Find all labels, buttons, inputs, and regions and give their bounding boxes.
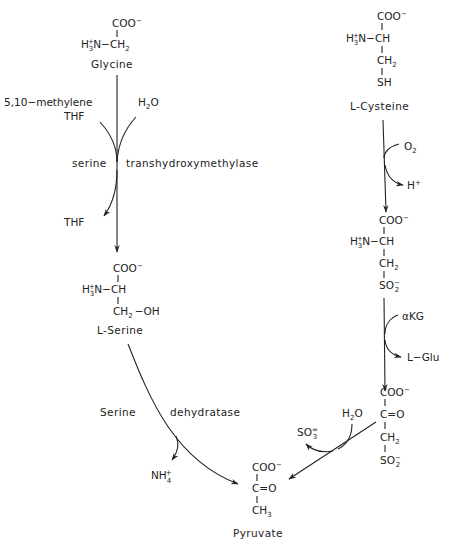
o2-label: O2 [404, 140, 417, 155]
pyruvate-keto: C=O [252, 482, 276, 494]
water-label: H2O [138, 96, 159, 111]
cysteine-sh: SH [377, 76, 392, 88]
sulfinylpyruvate-structure: COO− C=O CH2 SO−2 [380, 386, 410, 469]
water-in-curve [117, 117, 136, 162]
sulfinylpyruvate-coo: COO− [380, 386, 410, 398]
enzyme-label-right: dehydratase [170, 406, 240, 418]
cysteine-dioxygenase-step: O2 H+ [383, 120, 421, 212]
cysteine-label: L-Cysteine [350, 100, 409, 112]
nh4-out-curve [172, 436, 178, 460]
glycine-amine: H+3N−CH2 [81, 38, 130, 53]
sulfinylpyruvate-so2: SO−2 [380, 454, 401, 469]
cysteinesulfinate-coo: COO− [379, 214, 409, 226]
serine-amine: H+3N−CH [82, 283, 126, 298]
serine-transhydroxymethylase-step: 5,10−methylene THF H2O serine transhydro… [4, 75, 259, 252]
enzyme-label-left: serine [72, 157, 107, 169]
serine-dehydratase-step: Serine dehydratase NH+4 [100, 344, 240, 485]
methylene-thf-label-2: THF [63, 110, 84, 122]
cysteine-sulfinate-structure: COO− H+3N−CH CH2 SO−2 [350, 214, 409, 294]
cysteine-coo: COO− [377, 10, 407, 22]
sulfinylpyruvate-ch2: CH2 [380, 431, 400, 446]
thf-out-label: THF [63, 216, 84, 228]
h-out-curve [385, 165, 403, 185]
sulfinylpyruvate-keto: C=O [380, 408, 404, 420]
nh4-label: NH+4 [151, 469, 172, 485]
pyruvate-ch3: CH3 [252, 504, 272, 519]
cysteinesulfinate-amine: H+3N−CH [350, 235, 394, 250]
glycine-coo: COO− [112, 17, 142, 29]
sulfite-out-curve [306, 444, 333, 452]
serine-structure: COO− H+3N−CH CH2−OH L-Serine [82, 262, 160, 336]
serine-label: L-Serine [97, 324, 143, 336]
desulfination-step: H2O SO=3 [289, 407, 376, 479]
thf-out-curve [104, 170, 117, 216]
glycine-structure: COO− H+3N−CH2 Glycine [81, 17, 142, 70]
serine-ch2oh: CH2−OH [113, 305, 160, 320]
enzyme-label-right: transhydroxymethylase [126, 157, 259, 169]
akg-in-curve [385, 315, 398, 334]
cysteine-structure: COO− H+3N−CH CH2 SH L-Cysteine [346, 10, 409, 112]
h-plus-label: H+ [407, 179, 421, 191]
pyruvate-coo: COO− [252, 461, 282, 473]
sulfite-label: SO=3 [297, 426, 318, 441]
enzyme-label-left: Serine [100, 406, 136, 418]
methylene-thf-label: 5,10−methylene [4, 96, 92, 108]
thf-in-curve [100, 122, 117, 162]
serine-coo: COO− [113, 262, 143, 274]
water-label: H2O [342, 407, 363, 422]
akg-label: αKG [402, 310, 424, 322]
cysteinesulfinate-ch2: CH2 [379, 257, 399, 272]
main-arrow [384, 298, 385, 391]
pathway-diagram: COO− H+3N−CH2 Glycine 5,10−methylene THF… [0, 0, 459, 555]
cysteine-ch2: CH2 [377, 54, 397, 69]
pyruvate-label: Pyruvate [233, 527, 283, 539]
glycine-label: Glycine [91, 58, 133, 70]
transamination-step: αKG L−Glu [384, 298, 439, 391]
cysteinesulfinate-so2: SO−2 [379, 279, 400, 294]
cysteine-amine: H+3N−CH [346, 32, 390, 47]
glu-out-curve [385, 340, 401, 357]
pyruvate-structure: COO− C=O CH3 Pyruvate [233, 461, 283, 539]
o2-in-curve [384, 144, 399, 158]
glu-label: L−Glu [407, 351, 439, 363]
